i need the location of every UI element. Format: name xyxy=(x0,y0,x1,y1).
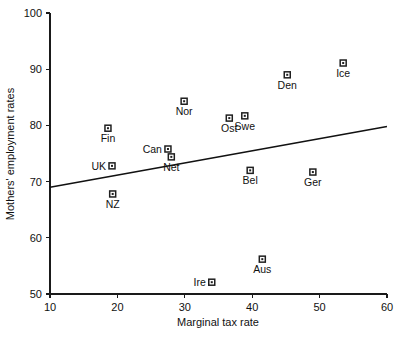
data-point-marker-core xyxy=(112,193,114,195)
y-axis-ticks xyxy=(46,13,50,294)
data-point-marker-core xyxy=(342,62,344,64)
data-point-label: NZ xyxy=(106,198,121,210)
x-axis-title: Marginal tax rate xyxy=(177,316,259,328)
y-axis-tick-labels: 5060708090100 xyxy=(24,7,42,300)
data-point: Bel xyxy=(243,167,258,186)
data-point: Nor xyxy=(176,98,193,117)
y-tick-label: 80 xyxy=(30,119,42,131)
data-point-label: Aus xyxy=(253,263,271,275)
data-point: Den xyxy=(278,72,297,91)
data-point-marker-core xyxy=(286,74,288,76)
y-tick-label: 100 xyxy=(24,7,42,19)
data-point-marker-core xyxy=(170,156,172,158)
data-point-label: Swe xyxy=(235,120,256,132)
x-tick-label: 30 xyxy=(179,301,191,313)
x-tick-label: 10 xyxy=(44,301,56,313)
data-point: Ice xyxy=(336,60,350,79)
data-point: NZ xyxy=(106,191,121,210)
scatter-chart-figure: 5060708090100 102030405060 FinUKNZCanNet… xyxy=(0,0,406,340)
y-tick-label: 50 xyxy=(30,288,42,300)
data-point: Aus xyxy=(253,256,271,275)
data-point-label: Den xyxy=(278,79,297,91)
data-point: Net xyxy=(163,154,179,173)
data-point-marker-core xyxy=(261,258,263,260)
y-tick-label: 60 xyxy=(30,232,42,244)
data-point-marker-core xyxy=(211,281,213,283)
data-point-label: Ice xyxy=(336,67,350,79)
x-tick-label: 60 xyxy=(381,301,393,313)
data-point-marker-core xyxy=(228,117,230,119)
data-point-label: Can xyxy=(143,143,162,155)
y-axis: 5060708090100 xyxy=(24,7,50,300)
data-point-marker-core xyxy=(111,165,113,167)
data-point-marker-core xyxy=(244,115,246,117)
x-tick-label: 50 xyxy=(313,301,325,313)
x-axis: 102030405060 xyxy=(44,294,393,313)
x-tick-label: 40 xyxy=(246,301,258,313)
data-point-label: Net xyxy=(163,161,179,173)
data-point-label: Bel xyxy=(243,174,258,186)
data-point-label: Ire xyxy=(193,276,205,288)
data-point-label: Nor xyxy=(176,105,193,117)
data-point-marker-core xyxy=(167,148,169,150)
data-point: Ire xyxy=(193,276,214,288)
data-point: Can xyxy=(143,143,171,155)
data-point-label: UK xyxy=(91,160,106,172)
data-point: Ger xyxy=(304,169,322,188)
data-point-label: Fin xyxy=(101,132,116,144)
y-axis-title: Mothers' employment rates xyxy=(4,87,16,220)
x-axis-ticks xyxy=(50,294,387,298)
data-point-label: Ger xyxy=(304,176,322,188)
plot-canvas: 5060708090100 102030405060 FinUKNZCanNet… xyxy=(0,0,406,340)
x-axis-tick-labels: 102030405060 xyxy=(44,301,393,313)
y-tick-label: 70 xyxy=(30,176,42,188)
data-point-marker-core xyxy=(183,100,185,102)
y-tick-label: 90 xyxy=(30,63,42,75)
data-point: Fin xyxy=(101,125,116,144)
data-point: UK xyxy=(91,160,115,172)
data-point-marker-core xyxy=(312,171,314,173)
x-tick-label: 20 xyxy=(111,301,123,313)
data-points-group: FinUKNZCanNetNorIreOstSweBelAusDenGerIce xyxy=(91,60,350,288)
data-point-marker-core xyxy=(107,127,109,129)
data-point-marker-core xyxy=(249,169,251,171)
data-point: Swe xyxy=(235,113,256,132)
